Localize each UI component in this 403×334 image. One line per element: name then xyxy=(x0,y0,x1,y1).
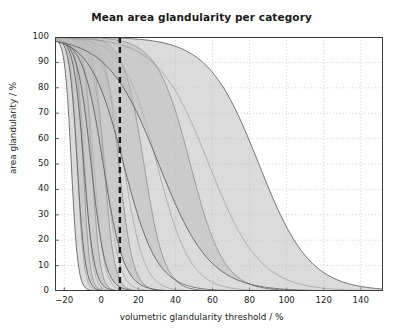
x-tick-label: −20 xyxy=(44,296,84,305)
x-tick-label: 100 xyxy=(267,296,307,305)
figure-canvas: Mean area glandularity per category area… xyxy=(0,0,403,334)
plot-area xyxy=(55,37,383,291)
x-tick-label: 80 xyxy=(230,296,270,305)
x-tick-label: 20 xyxy=(118,296,158,305)
x-tick-label: 120 xyxy=(304,296,344,305)
x-tick-label: 0 xyxy=(81,296,121,305)
chart-plot xyxy=(55,37,383,291)
x-tick-label: 60 xyxy=(193,296,233,305)
x-tick-label: 140 xyxy=(341,296,381,305)
x-axis-label: volumetric glandularity threshold / % xyxy=(0,312,403,322)
x-tick-label: 40 xyxy=(155,296,195,305)
